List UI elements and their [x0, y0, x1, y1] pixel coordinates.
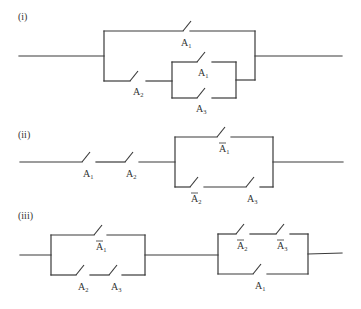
- switch-label: A2: [126, 168, 136, 180]
- switch-blade-icon: [197, 52, 205, 62]
- switch-not-a3: A3: [276, 224, 287, 252]
- switch-blade-icon: [94, 225, 102, 235]
- switch-blade-icon: [190, 177, 198, 187]
- switch-blade-icon: [82, 152, 90, 162]
- switch-label: A2: [237, 240, 247, 252]
- switch-a1: A1: [82, 152, 93, 180]
- switch-blade-icon: [197, 88, 205, 98]
- switch-not-a2: A2: [190, 177, 201, 205]
- switch-blade-icon: [246, 177, 254, 187]
- switch-a2: A2: [125, 152, 136, 180]
- circuit-caption: (ii): [18, 129, 30, 141]
- circuit-iii: (iii)A1A2A3A2A3A1: [18, 210, 342, 293]
- circuit-caption: (iii): [18, 210, 33, 222]
- switch-label: A2: [78, 281, 88, 293]
- circuit-ii: (ii)A1A2A1A2A3: [18, 127, 343, 205]
- switch-blade-icon: [125, 152, 133, 162]
- switch-blade-icon: [276, 224, 284, 234]
- switch-label: A2: [191, 193, 201, 205]
- wire: [308, 253, 342, 254]
- switch-blade-icon: [217, 127, 225, 137]
- switch-label: A1: [96, 241, 106, 253]
- switch-not-a1: A1: [217, 127, 229, 155]
- switching-circuits-figure: (i)A1A2A1A3 (ii)A1A2A1A2A3 (iii)A1A2A3A2…: [0, 0, 361, 309]
- switch-label: A1: [83, 168, 93, 180]
- switch-blade-icon: [253, 264, 261, 274]
- switch-label: A3: [247, 193, 257, 205]
- switch-a2: A2: [130, 71, 143, 98]
- switch-label: A3: [277, 240, 287, 252]
- circuit-caption: (i): [18, 11, 27, 23]
- switch-blade-icon: [236, 224, 244, 234]
- switch-label: A2: [133, 86, 143, 98]
- switch-blade-icon: [109, 265, 117, 275]
- switch-blade-icon: [183, 21, 191, 31]
- switch-blade-icon: [76, 265, 84, 275]
- switch-not-a2: A2: [236, 224, 247, 252]
- switch-a1: A1: [197, 52, 208, 79]
- switch-label: A1: [219, 143, 229, 155]
- switch-label: A3: [111, 281, 121, 293]
- switch-a1: A1: [181, 21, 191, 49]
- switch-label: A3: [196, 103, 206, 115]
- switch-label: A1: [181, 37, 191, 49]
- switch-label: A1: [255, 280, 265, 292]
- switch-a3: A3: [196, 88, 206, 115]
- switch-a2: A2: [76, 265, 88, 293]
- switch-a3: A3: [246, 177, 257, 205]
- switch-not-a1: A1: [94, 225, 106, 253]
- switch-label: A1: [198, 67, 208, 79]
- switch-a1: A1: [253, 264, 265, 292]
- switch-blade-icon: [130, 71, 138, 81]
- switch-a3: A3: [109, 265, 121, 293]
- circuit-i: (i)A1A2A1A3: [18, 11, 342, 115]
